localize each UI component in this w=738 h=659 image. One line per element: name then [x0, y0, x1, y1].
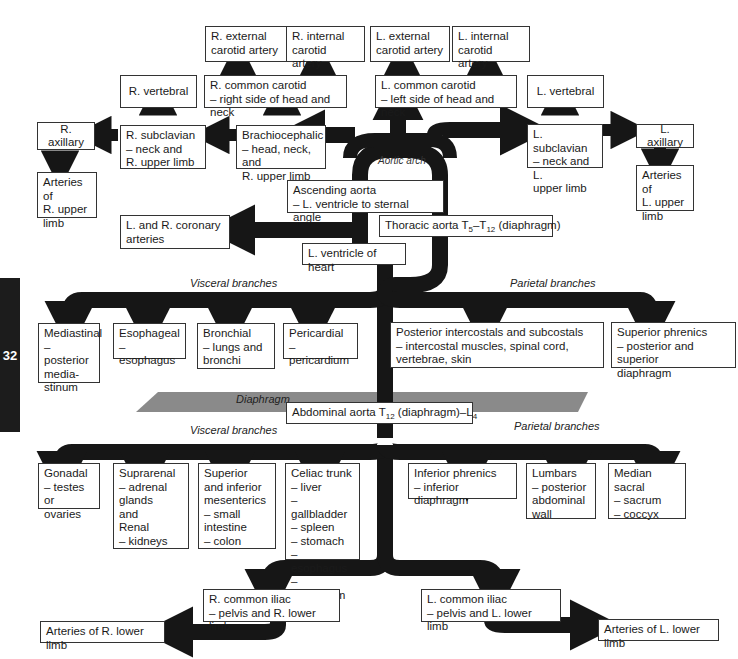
inferior-phrenics-box: Inferior phrenics – inferior diaphragm	[408, 463, 517, 499]
r-common-iliac-box: R. common iliac – pelvis and R. lower li…	[203, 589, 340, 622]
page-tab: 32	[0, 278, 20, 432]
celiac-trunk-box: Celiac trunk – liver – gallbladder – spl…	[285, 463, 360, 560]
l-upper-limb-arteries-box: Arteries of L. upper limb	[636, 165, 694, 211]
suprarenal-renal-box: Suprarenal – adrenal glands and Renal – …	[113, 463, 189, 549]
l-lower-limb-arteries-box: Arteries of L. lower limb	[598, 619, 719, 641]
r-subclavian-box: R. subclavian – neck and R. upper limb	[120, 125, 206, 169]
thoracic-parietal-label: Parietal branches	[510, 277, 596, 289]
thoracic-visceral-label: Visceral branches	[190, 277, 277, 289]
l-common-carotid-box: L. common carotid – left side of head an…	[375, 75, 517, 108]
superior-phrenics-box: Superior phrenics – posterior and superi…	[611, 322, 736, 368]
median-sacral-box: Median sacral – sacrum – coccyx	[608, 463, 686, 519]
l-vertebral-box: L. vertebral	[527, 75, 604, 108]
aortic-arch-label: Aortic arch	[378, 155, 426, 166]
esophageal-box: Esophageal – esophagus	[113, 323, 186, 359]
r-upper-limb-arteries-box: Arteries of R. upper limb	[37, 172, 97, 218]
thoracic-aorta-box: Thoracic aorta T5–T12 (diaphragm)	[379, 215, 553, 237]
r-lower-limb-arteries-box: Arteries of R. lower limb	[40, 621, 165, 643]
l-subclavian-box: L. subclavian – neck and L. upper limb	[527, 124, 603, 168]
posterior-intercostals-box: Posterior intercostals and subcostals – …	[390, 322, 604, 368]
r-axillary-box: R. axillary	[37, 122, 95, 150]
l-external-carotid-box: L. external carotid artery	[370, 26, 450, 62]
coronary-arteries-box: L. and R. coronary arteries	[120, 215, 230, 249]
gonadal-box: Gonadal – testes or ovaries	[38, 463, 100, 509]
mediastinal-box: Mediastinal – posterior media- stinum	[38, 323, 100, 383]
lumbars-box: Lumbars – posterior abdominal wall	[526, 463, 596, 519]
diaphragm-label: Diaphragm	[236, 393, 290, 405]
abdominal-visceral-label: Visceral branches	[190, 424, 277, 436]
r-internal-carotid-box: R. internal carotid artery	[286, 26, 365, 62]
abdominal-parietal-label: Parietal branches	[514, 420, 600, 432]
r-vertebral-box: R. vertebral	[120, 75, 197, 108]
l-internal-carotid-box: L. internal carotid artery	[452, 26, 530, 62]
brachiocephalic-box: Brachiocephalic – head, neck, and R. upp…	[236, 125, 326, 169]
bronchial-box: Bronchial – lungs and bronchi	[197, 323, 275, 369]
r-common-carotid-box: R. common carotid – right side of head a…	[204, 75, 347, 108]
ascending-aorta-box: Ascending aorta – L. ventricle to sterna…	[287, 180, 444, 213]
r-external-carotid-box: R. external carotid artery	[205, 26, 294, 62]
abdominal-aorta-box: Abdominal aorta T12 (diaphragm)–L4	[286, 402, 473, 424]
aorta-branching-diagram: 32 Aortic arch R. external carotid arter…	[0, 0, 738, 659]
l-axillary-box: L. axillary	[636, 124, 694, 148]
pericardial-box: Pericardial – pericardium	[283, 323, 358, 359]
l-common-iliac-box: L. common iliac – pelvis and L. lower li…	[421, 589, 561, 622]
mesenterics-box: Superior and inferior mesenterics – smal…	[198, 463, 276, 549]
l-ventricle-box: L. ventricle of heart	[302, 243, 406, 265]
